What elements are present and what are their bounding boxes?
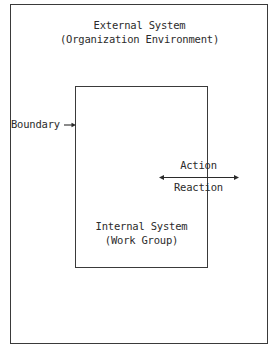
external-system-label-line2: (Organization Environment) — [0, 32, 279, 46]
internal-system-label-line1: Internal System — [75, 219, 208, 233]
external-system-label: External System (Organization Environmen… — [0, 18, 279, 46]
action-label: Action — [160, 159, 237, 171]
internal-system-label: Internal System (Work Group) — [75, 219, 208, 247]
right-arrow-icon — [64, 118, 78, 132]
reaction-label: Reaction — [160, 181, 237, 193]
internal-system-label-line2: (Work Group) — [75, 233, 208, 247]
boundary-label: Boundary — [11, 118, 60, 131]
external-system-label-line1: External System — [0, 18, 279, 32]
diagram-canvas: External System (Organization Environmen… — [0, 0, 279, 351]
